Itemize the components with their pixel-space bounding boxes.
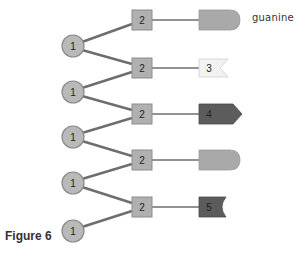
sugar-nodes: 1 1 1 1 1 xyxy=(62,35,84,242)
svg-text:1: 1 xyxy=(70,87,76,98)
svg-text:3: 3 xyxy=(206,63,212,74)
backbone-links xyxy=(82,24,132,227)
nucleotide-chain-diagram: 1 1 1 1 1 2 2 2 xyxy=(0,0,299,259)
svg-text:2: 2 xyxy=(139,15,145,26)
bases: 3 4 5 xyxy=(199,10,242,217)
svg-text:1: 1 xyxy=(70,226,76,237)
sugar-node: 1 xyxy=(62,220,84,242)
unit-square: 2 xyxy=(132,150,152,170)
unit-square: 2 xyxy=(132,58,152,78)
guanine-label: guanine xyxy=(252,12,294,23)
svg-text:1: 1 xyxy=(70,41,76,52)
svg-text:2: 2 xyxy=(139,109,145,120)
base-guanine xyxy=(199,10,240,30)
figure-caption: Figure 6 xyxy=(5,229,52,243)
base-3: 3 xyxy=(199,59,228,77)
svg-text:2: 2 xyxy=(139,202,145,213)
svg-text:1: 1 xyxy=(70,132,76,143)
svg-text:4: 4 xyxy=(206,109,212,120)
base-5: 5 xyxy=(199,197,226,217)
svg-text:1: 1 xyxy=(70,178,76,189)
unit-squares: 2 2 2 2 2 xyxy=(132,10,152,217)
base-rounded xyxy=(199,150,240,170)
sugar-node: 1 xyxy=(62,172,84,194)
svg-text:5: 5 xyxy=(206,202,212,213)
base-4: 4 xyxy=(199,104,242,124)
unit-square: 2 xyxy=(132,10,152,30)
base-links xyxy=(152,20,199,207)
unit-square: 2 xyxy=(132,104,152,124)
sugar-node: 1 xyxy=(62,35,84,57)
svg-text:2: 2 xyxy=(139,63,145,74)
sugar-node: 1 xyxy=(62,81,84,103)
unit-square: 2 xyxy=(132,197,152,217)
svg-text:2: 2 xyxy=(139,155,145,166)
sugar-node: 1 xyxy=(62,126,84,148)
